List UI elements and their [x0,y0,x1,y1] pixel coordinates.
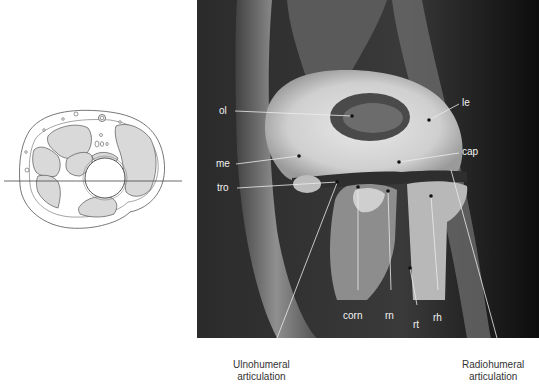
label-me: me [216,159,230,169]
caption-radiohumeral: Radiohumeral articulation [462,359,524,383]
caption-ulnohumeral-line1: Ulnohumeral [233,359,290,371]
label-rt: rt [413,320,419,330]
label-cap: cap [462,147,478,157]
label-ol: ol [219,106,227,116]
label-rn: rn [385,311,394,321]
caption-radiohumeral-line2: articulation [462,371,524,383]
caption-radiohumeral-line1: Radiohumeral [462,359,524,371]
label-corn: corn [343,311,362,321]
mri-image: ol le me cap tro corn rn rt rh [197,0,539,338]
cross-section-illustration [0,90,190,260]
cross-section-diagram [0,90,190,260]
mri-scan [197,0,539,338]
label-le: le [462,98,470,108]
label-rh: rh [433,313,442,323]
label-tro: tro [217,183,229,193]
caption-ulnohumeral: Ulnohumeral articulation [233,359,290,383]
caption-ulnohumeral-line2: articulation [233,371,290,383]
